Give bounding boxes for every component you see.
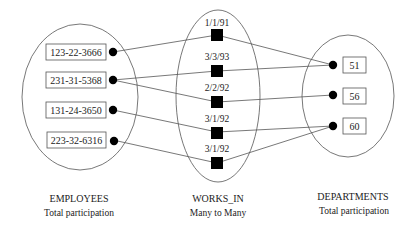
employee-entity-2: 231-31-5368 (46, 72, 117, 88)
department-entity-1: 51 (329, 57, 366, 73)
edge-emp4-rel5 (113, 140, 217, 163)
department-entity-3: 60 (329, 118, 366, 134)
relationship-square (211, 127, 223, 139)
employees-title: EMPLOYEES (50, 193, 109, 204)
employee-dot (109, 76, 117, 84)
relationship-square (211, 96, 223, 108)
edge-emp2-rel2 (113, 71, 217, 80)
employee-entity-4: 223-32-6316 (47, 132, 118, 148)
since-date: 3/3/93 (205, 52, 230, 62)
works-in-instance-3: 2/2/92 (205, 83, 230, 108)
edge-rel4-dept60 (217, 126, 333, 132)
department-entity-2: 56 (329, 88, 366, 104)
works-in-subtitle: Many to Many (190, 208, 247, 218)
employee-ssn: 231-31-5368 (50, 75, 102, 86)
department-id: 51 (350, 60, 360, 71)
works-in-instance-2: 3/3/93 (205, 52, 230, 77)
edge-emp3-rel4 (113, 110, 217, 132)
department-id: 60 (350, 121, 360, 132)
edge-rel5-dept60 (217, 126, 333, 163)
relationship-square (211, 65, 223, 77)
department-id: 56 (350, 91, 360, 102)
employee-dot (110, 137, 118, 145)
employee-dot (109, 48, 117, 56)
works-in-title: WORKS_IN (192, 193, 244, 204)
employee-entity-1: 123-22-3666 (46, 44, 117, 60)
since-date: 3/1/92 (205, 144, 230, 154)
department-dot (329, 122, 337, 130)
works-in-instance-4: 3/1/92 (205, 114, 230, 139)
employee-dot (109, 106, 117, 114)
since-date: 3/1/92 (205, 114, 230, 124)
employee-ssn: 123-22-3666 (50, 47, 102, 58)
employee-ssn: 131-24-3650 (50, 105, 102, 116)
employee-ssn: 223-32-6316 (51, 135, 103, 146)
departments-subtitle: Total participation (319, 206, 389, 216)
employees-subtitle: Total participation (44, 208, 114, 218)
edge-rel1-dept51 (217, 35, 333, 65)
since-date: 1/1/91 (205, 18, 230, 28)
relationship-square (211, 157, 223, 169)
edge-rel2-dept51 (217, 65, 333, 71)
departments-title: DEPARTMENTS (317, 191, 388, 202)
edge-emp2-rel3 (113, 80, 217, 102)
works-in-instance-5: 3/1/92 (205, 144, 230, 169)
department-dot (329, 91, 337, 99)
edge-rel3-dept56 (217, 95, 333, 102)
employee-entity-3: 131-24-3650 (46, 102, 117, 118)
relationship-square (211, 29, 223, 41)
department-dot (329, 61, 337, 69)
edge-emp1-rel1 (113, 35, 217, 52)
since-date: 2/2/92 (205, 83, 230, 93)
er-instance-diagram: 123-22-3666 231-31-5368 131-24-3650 223-… (0, 0, 411, 231)
